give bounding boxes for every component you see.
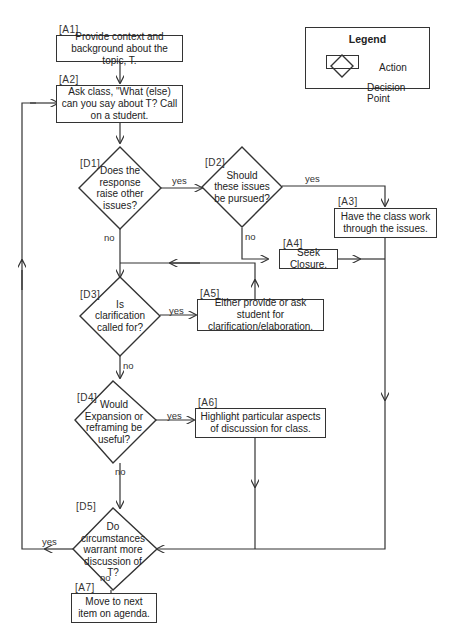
decision-d5-tag: [D5] bbox=[76, 501, 96, 512]
decision-d3-text: Is clarification called for? bbox=[90, 303, 150, 329]
action-a1-box: Provide context and background about the… bbox=[56, 35, 183, 62]
decision-d2-text: Should these issues be pursued? bbox=[214, 168, 270, 206]
action-a3-tag: [A3] bbox=[338, 196, 358, 207]
edge-label-d5-no: no bbox=[100, 572, 111, 583]
edge-label-d4-yes: yes bbox=[167, 410, 182, 421]
action-a7-tag: [A7] bbox=[75, 582, 95, 593]
decision-d1-text: Does the response raise other issues? bbox=[90, 168, 150, 208]
edge-label-d2-no: no bbox=[245, 231, 256, 242]
action-a6-box: Highlight particular aspects of discussi… bbox=[195, 408, 326, 438]
action-a7-box: Move to next item on agenda. bbox=[71, 593, 157, 623]
action-a4-box: Seek Closure. bbox=[279, 249, 338, 269]
action-a3-box: Have the class work through the issues. bbox=[334, 208, 437, 238]
decision-d5-text: Do circumstances warrant more discussion… bbox=[80, 520, 146, 580]
edge-label-d1-yes: yes bbox=[172, 175, 187, 186]
legend-action-shape bbox=[326, 55, 359, 69]
legend-decision-label: Decision Point bbox=[367, 82, 429, 104]
decision-d4-text: Would Expansion or reframing be useful? bbox=[84, 398, 144, 446]
action-a2-tag: [A2] bbox=[59, 74, 79, 85]
edge-label-d3-yes: yes bbox=[169, 305, 184, 316]
legend-title: Legend bbox=[306, 33, 429, 45]
action-a6-tag: [A6] bbox=[198, 397, 218, 408]
action-a2-box: Ask class, "What (else) can you say abou… bbox=[56, 85, 183, 123]
edge-label-d2-yes: yes bbox=[305, 173, 320, 184]
legend: Legend Action Decision Point bbox=[305, 27, 430, 89]
edge-label-d4-no: no bbox=[115, 466, 126, 477]
edge-label-d5-yes: yes bbox=[42, 536, 57, 547]
edge-label-d3-no: no bbox=[123, 360, 134, 371]
decision-d2-tag: [D2] bbox=[205, 157, 225, 168]
edge-label-d1-no: no bbox=[104, 232, 115, 243]
action-a5-box: Either provide or ask student for clarif… bbox=[197, 299, 324, 331]
legend-action-label: Action bbox=[379, 62, 407, 73]
